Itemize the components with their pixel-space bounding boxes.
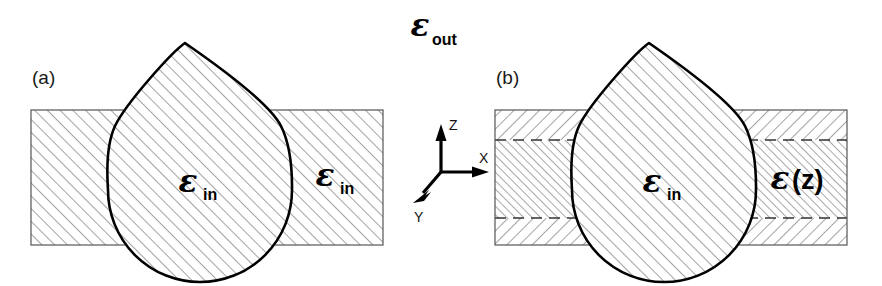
panel-b-epsilon-of-z: ε (z) xyxy=(771,160,824,196)
x-axis-letter: X xyxy=(479,150,489,166)
panel-a-label: (a) xyxy=(32,67,55,88)
epsilon-symbol: ε xyxy=(316,157,335,193)
epsilon-subscript: in xyxy=(667,186,681,203)
y-axis-letter: Y xyxy=(414,209,424,225)
figure-canvas: (a) ε in ε in (b xyxy=(0,0,882,286)
epsilon-symbol: ε xyxy=(643,163,662,199)
epsilon-subscript: out xyxy=(432,31,458,48)
epsilon-subscript: in xyxy=(203,186,217,203)
panel-b-label: (b) xyxy=(496,67,519,88)
epsilon-symbol: ε xyxy=(411,7,430,43)
epsilon-symbol: ε xyxy=(771,160,790,196)
epsilon-subscript: in xyxy=(340,180,354,197)
epsilon-argument: (z) xyxy=(792,165,823,195)
epsilon-symbol: ε xyxy=(179,163,198,199)
z-axis-letter: Z xyxy=(449,117,458,133)
